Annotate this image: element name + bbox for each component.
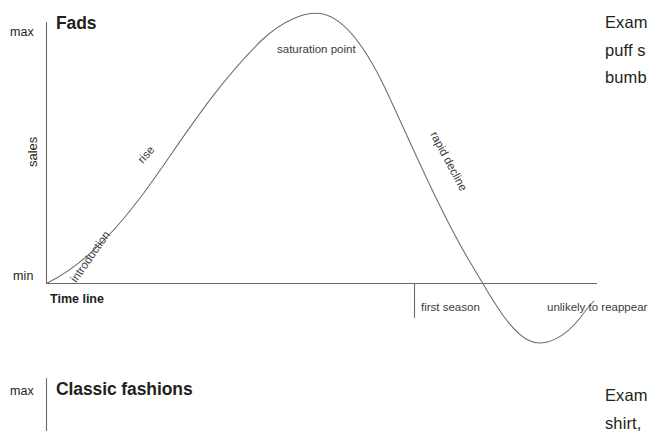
- classic-body-copy-line-2: shirt,: [605, 410, 648, 431]
- chart-vector-layer: [0, 0, 660, 431]
- annotation-first-season: first season: [421, 302, 480, 314]
- fads-y-min-label: min: [13, 270, 33, 283]
- classic-panel-title: Classic fashions: [56, 381, 193, 399]
- figure-canvas: max min sales Fads Time line introductio…: [0, 0, 660, 431]
- fads-y-max-label: max: [10, 26, 34, 39]
- classic-body-copy: Exam shirt,: [605, 382, 648, 431]
- classic-body-copy-line-1: Exam: [605, 382, 648, 410]
- fads-body-copy-line-1: Exam: [605, 9, 648, 37]
- fads-body-copy-line-2: puff s: [605, 37, 648, 65]
- annotation-unlikely-to-reappear: unlikely to reappear: [547, 302, 647, 314]
- fads-x-axis-name: Time line: [50, 293, 104, 306]
- fads-body-copy-line-3: bumb: [605, 64, 648, 92]
- fads-panel-title: Fads: [56, 15, 96, 33]
- classic-y-max-label: max: [10, 385, 34, 398]
- fads-y-axis-name: sales: [26, 137, 39, 167]
- fads-body-copy: Exam puff s bumb: [605, 9, 648, 92]
- fads-sales-curve: [47, 13, 595, 343]
- annotation-saturation-point: saturation point: [277, 44, 356, 56]
